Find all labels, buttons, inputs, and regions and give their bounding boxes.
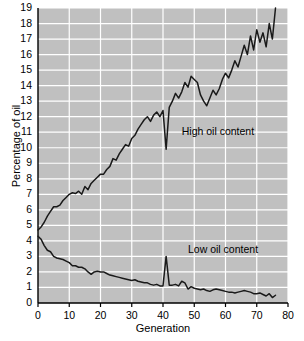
y-tick-label: 2 <box>2 265 32 277</box>
oil-percentage-line-chart: High oil contentLow oil content 01234567… <box>0 0 304 341</box>
x-tick-label: 20 <box>86 309 116 321</box>
y-tick-label: 4 <box>2 234 32 246</box>
x-tick-label: 30 <box>117 309 147 321</box>
y-tick-label: 5 <box>2 218 32 230</box>
x-tick-label: 60 <box>211 309 241 321</box>
y-tick-label: 16 <box>2 48 32 60</box>
annotation-high-oil-content: High oil content <box>182 125 254 137</box>
x-tick-label: 40 <box>148 309 178 321</box>
y-tick-label: 19 <box>2 1 32 13</box>
chart-plot-svg: High oil contentLow oil content <box>0 0 304 341</box>
y-tick-label: 18 <box>2 17 32 29</box>
y-tick-label: 3 <box>2 249 32 261</box>
annotation-low-oil-content: Low oil content <box>188 243 258 255</box>
x-tick-label: 80 <box>273 309 303 321</box>
y-tick-label: 17 <box>2 32 32 44</box>
x-tick-label: 10 <box>54 309 84 321</box>
y-tick-label: 0 <box>2 296 32 308</box>
x-axis-title: Generation <box>38 322 288 334</box>
y-tick-label: 15 <box>2 63 32 75</box>
x-tick-label: 0 <box>23 309 53 321</box>
x-tick-label: 70 <box>242 309 272 321</box>
y-tick-label: 1 <box>2 280 32 292</box>
x-tick-label: 50 <box>179 309 209 321</box>
y-axis-title: Percentage of oil <box>10 86 22 206</box>
